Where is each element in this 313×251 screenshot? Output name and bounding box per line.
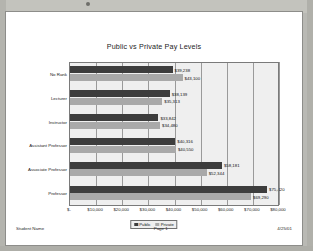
y-axis-category-label: Associate Professor bbox=[28, 167, 67, 172]
chart-title: Public vs Private Pay Levels bbox=[6, 42, 302, 51]
x-axis-tick-labels: $-$10,000$20,000$30,000$40,000$50,000$60… bbox=[69, 207, 279, 217]
chart-bar-private: $40,550 bbox=[70, 146, 176, 153]
chart-bar-private: $69,290 bbox=[70, 193, 251, 200]
chart-bar-value-label: $33,842 bbox=[160, 115, 176, 120]
x-axis-tick-label: $80,000 bbox=[270, 207, 286, 212]
x-axis-tick-label: $10,000 bbox=[87, 207, 103, 212]
desktop-bottom-edge bbox=[0, 246, 313, 251]
chart-bar-private: $52,344 bbox=[70, 169, 207, 176]
x-axis-tick-label: $- bbox=[67, 207, 71, 212]
chart-bar-value-label: $35,313 bbox=[164, 99, 180, 104]
y-axis-category-label: Professor bbox=[48, 191, 67, 196]
x-axis-tick-label: $30,000 bbox=[140, 207, 156, 212]
chart-bar-value-label: $43,100 bbox=[185, 75, 201, 80]
chart-bar-value-label: $39,238 bbox=[175, 67, 191, 72]
footer-center-text: Page 1 bbox=[154, 226, 168, 231]
chart-bar-value-label: $40,550 bbox=[178, 147, 194, 152]
toolbar-dot-icon bbox=[86, 2, 90, 6]
chart-bar-private: $43,100 bbox=[70, 74, 183, 81]
chart-category-group: Instructor$33,842$34,480 bbox=[70, 110, 279, 134]
document-page: Public vs Private Pay Levels No Rank$39,… bbox=[5, 11, 303, 246]
chart-bar-public: $33,842 bbox=[70, 114, 158, 121]
footer-left-text: Student Name bbox=[16, 226, 44, 231]
chart-bar-private: $35,313 bbox=[70, 98, 162, 105]
chart-bar-value-label: $75,420 bbox=[269, 187, 285, 192]
chart-bar-public: $75,420 bbox=[70, 186, 267, 193]
y-axis-category-label: Lecturer bbox=[51, 95, 67, 100]
chart-bar-private: $34,480 bbox=[70, 122, 160, 129]
x-axis-tick-label: $20,000 bbox=[113, 207, 129, 212]
y-axis-category-label: Instructor bbox=[49, 119, 67, 124]
chart-bar-value-label: $52,344 bbox=[209, 170, 225, 175]
chart-category-group: Professor$75,420$69,290 bbox=[70, 181, 279, 205]
chart-plot-area: No Rank$39,238$43,100Lecturer$38,139$35,… bbox=[69, 62, 279, 206]
x-axis-tick-label: $40,000 bbox=[166, 207, 182, 212]
chart-bar-public: $38,139 bbox=[70, 90, 170, 97]
x-axis-tick-label: $60,000 bbox=[218, 207, 234, 212]
x-axis-tick-label: $70,000 bbox=[244, 207, 260, 212]
chart-bar-public: $40,316 bbox=[70, 138, 175, 145]
chart-bar-public: $58,181 bbox=[70, 162, 222, 169]
chart-category-group: Associate Professor$58,181$52,344 bbox=[70, 157, 279, 181]
x-axis-tick-label: $50,000 bbox=[192, 207, 208, 212]
chart-category-group: Lecturer$38,139$35,313 bbox=[70, 86, 279, 110]
y-axis-category-label: Assistant Professor bbox=[29, 143, 67, 148]
chart-bar-value-label: $34,480 bbox=[162, 123, 178, 128]
footer-right-text: 4/25/01 bbox=[277, 226, 292, 231]
desktop-right-edge bbox=[307, 0, 313, 251]
chart-bar-value-label: $40,316 bbox=[177, 139, 193, 144]
chart-bar-value-label: $58,181 bbox=[224, 163, 240, 168]
chart-category-group: No Rank$39,238$43,100 bbox=[70, 62, 279, 86]
chart-gridline bbox=[279, 62, 280, 205]
chart-bar-public: $39,238 bbox=[70, 66, 173, 73]
page-footer: Student Name Page 1 4/25/01 bbox=[16, 226, 292, 231]
y-axis-category-label: No Rank bbox=[50, 71, 67, 76]
chart-category-group: Assistant Professor$40,316$40,550 bbox=[70, 134, 279, 158]
chart-bar-value-label: $69,290 bbox=[253, 194, 269, 199]
chart-bar-value-label: $38,139 bbox=[172, 91, 188, 96]
screenshot-root: Public vs Private Pay Levels No Rank$39,… bbox=[0, 0, 313, 251]
